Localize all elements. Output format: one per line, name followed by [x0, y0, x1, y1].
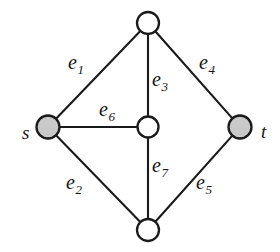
edge-label-base: e: [99, 98, 108, 120]
edge-label-subscript: 3: [161, 79, 168, 94]
graph-node-center: [138, 117, 159, 138]
node-label-s: s: [22, 123, 29, 142]
edge-label-base: e: [196, 171, 205, 193]
edge-label-e5: e5: [196, 172, 211, 192]
edge-label-e7: e7: [152, 155, 167, 175]
edge-label-subscript: 2: [75, 182, 82, 197]
edge-label-subscript: 6: [108, 109, 115, 124]
edge-label-subscript: 4: [208, 62, 215, 77]
graph-node-top: [137, 12, 159, 34]
graph-node-s: [37, 116, 60, 139]
edge-label-e2: e2: [66, 172, 81, 192]
edge-label-base: e: [68, 51, 77, 73]
graph-canvas: [0, 0, 280, 252]
edge-label-e3: e3: [152, 69, 167, 89]
graph-figure: e1e2e3e4e5e6e7 st: [0, 0, 280, 252]
edge-label-base: e: [152, 68, 161, 90]
graph-node-t: [229, 116, 252, 139]
node-label-t: t: [261, 122, 266, 141]
edge-label-e4: e4: [199, 52, 214, 72]
edge-label-subscript: 1: [77, 62, 84, 77]
edge-label-subscript: 5: [205, 182, 212, 197]
edge-label-base: e: [66, 171, 75, 193]
edge-label-base: e: [152, 154, 161, 176]
edge-label-base: e: [199, 51, 208, 73]
graph-node-bottom: [137, 219, 159, 241]
edge-label-e1: e1: [68, 52, 83, 72]
edge-label-e6: e6: [99, 99, 114, 119]
edge-label-subscript: 7: [161, 165, 168, 180]
